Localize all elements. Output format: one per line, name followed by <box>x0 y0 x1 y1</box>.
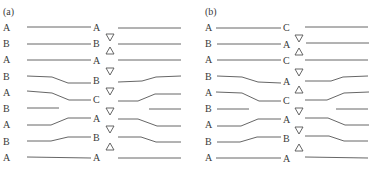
right-strands <box>118 28 181 158</box>
left-label: B <box>205 103 212 114</box>
middle-label: B <box>93 75 100 86</box>
up-triangle-icon <box>295 144 303 151</box>
strand-line <box>217 137 281 142</box>
left-label: B <box>3 71 10 82</box>
panel-b: (b) A B A B A B A B A C A C A <box>205 6 369 164</box>
middle-labels: C A C A C A B A <box>283 22 291 164</box>
strand-line <box>305 76 368 81</box>
strand-line <box>118 76 181 82</box>
strand-line <box>27 76 91 83</box>
left-label: B <box>205 136 212 147</box>
middle-label: A <box>93 152 101 163</box>
middle-label: B <box>283 133 290 144</box>
up-triangle-icon <box>295 48 303 55</box>
middle-labels: A B A B C A B A <box>93 22 101 163</box>
middle-label: A <box>93 55 101 66</box>
left-label: A <box>205 87 213 98</box>
strand-line <box>27 137 91 141</box>
markers <box>106 34 114 150</box>
left-label: B <box>205 38 212 49</box>
middle-label: C <box>283 22 290 33</box>
left-labels: A B A B A B A B A <box>3 22 11 163</box>
down-triangle-icon <box>106 68 114 75</box>
markers <box>295 35 303 151</box>
left-label: A <box>3 119 11 130</box>
strand-line <box>27 157 91 158</box>
strand-line <box>216 92 281 101</box>
strand-line <box>217 76 281 83</box>
middle-label: A <box>283 153 291 164</box>
left-label: A <box>3 87 11 98</box>
down-triangle-icon <box>295 127 303 134</box>
panel-label: (a) <box>3 6 14 18</box>
middle-label: A <box>283 39 291 50</box>
panel-label: (b) <box>205 6 217 18</box>
middle-label: B <box>93 38 100 49</box>
up-triangle-icon <box>106 47 114 54</box>
down-triangle-icon <box>295 108 303 115</box>
strand-line <box>305 118 369 125</box>
diagram-canvas: (a) A B A B A B A B A A B <box>0 0 382 171</box>
down-triangle-icon <box>106 88 114 95</box>
strand-line <box>118 119 181 126</box>
left-label: B <box>205 71 212 82</box>
strand-line <box>118 94 181 101</box>
down-triangle-icon <box>106 108 114 115</box>
left-strands <box>216 28 281 158</box>
strand-line <box>217 119 281 126</box>
left-label: A <box>205 119 213 130</box>
down-triangle-icon <box>295 69 303 76</box>
middle-label: C <box>283 55 290 66</box>
down-triangle-icon <box>106 126 114 133</box>
left-label: A <box>205 152 213 163</box>
strand-line <box>305 136 368 141</box>
strand-line <box>27 118 91 125</box>
middle-label: A <box>283 76 291 87</box>
right-strands <box>305 27 369 158</box>
left-label: A <box>3 152 11 163</box>
panel-a: (a) A B A B A B A B A A B <box>3 6 181 163</box>
left-label: B <box>3 136 10 147</box>
left-labels: A B A B A B A B A <box>205 22 213 163</box>
left-label: B <box>3 38 10 49</box>
strand-line <box>305 157 368 158</box>
strand-line <box>118 137 181 142</box>
middle-label: C <box>283 95 290 106</box>
left-label: A <box>205 22 213 33</box>
left-label: B <box>3 103 10 114</box>
strand-line <box>27 91 91 100</box>
middle-label: A <box>93 113 101 124</box>
down-triangle-icon <box>106 34 114 41</box>
up-triangle-icon <box>106 143 114 150</box>
middle-label: C <box>93 94 100 105</box>
down-triangle-icon <box>295 35 303 42</box>
left-label: A <box>205 54 213 65</box>
strand-line <box>305 92 369 100</box>
left-strands <box>27 27 91 158</box>
left-label: A <box>3 54 11 65</box>
left-label: A <box>3 22 11 33</box>
middle-label: A <box>93 22 101 33</box>
middle-label: B <box>93 132 100 143</box>
up-triangle-icon <box>295 86 303 93</box>
middle-label: A <box>283 114 291 125</box>
